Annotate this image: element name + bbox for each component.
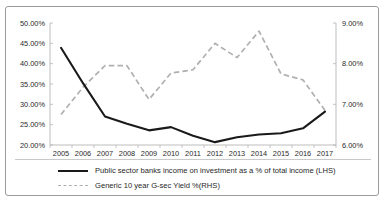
series-line-psb-income [61,48,325,142]
svg-text:2011: 2011 [185,149,201,158]
svg-text:2012: 2012 [207,149,223,158]
series-line-gsec-yield [61,31,325,114]
svg-text:30.00%: 30.00% [20,100,45,109]
svg-text:2006: 2006 [75,149,91,158]
svg-text:6.00%: 6.00% [342,141,363,150]
svg-text:7.00%: 7.00% [342,100,363,109]
legend-swatch-dashed-icon [58,181,88,191]
svg-text:2017: 2017 [317,149,333,158]
svg-text:2015: 2015 [273,149,289,158]
x-axis-tick-labels: 2005200620072008200920102011201220132014… [50,145,336,158]
svg-text:45.00%: 45.00% [20,39,45,48]
legend-swatch-solid-icon [58,166,88,176]
left-axis-tick-labels: 50.00%45.00%40.00%35.00%30.00%25.00%20.0… [20,19,53,150]
plot-area: 50.00%45.00%40.00%35.00%30.00%25.00%20.0… [6,7,380,159]
right-axis-tick-labels: 9.00%8.00%7.00%6.00% [333,19,363,150]
svg-text:25.00%: 25.00% [20,120,45,129]
svg-text:2016: 2016 [295,149,311,158]
svg-text:9.00%: 9.00% [342,19,363,28]
svg-text:20.00%: 20.00% [20,141,45,150]
svg-text:2010: 2010 [163,149,179,158]
svg-text:2007: 2007 [97,149,113,158]
legend-divider [15,159,371,160]
svg-text:40.00%: 40.00% [20,59,45,68]
svg-text:35.00%: 35.00% [20,80,45,89]
legend-item-gsec-yield: Generic 10 year G-sec Yield %(RHS) [6,178,380,193]
chart-frame: 50.00%45.00%40.00%35.00%30.00%25.00%20.0… [5,6,379,196]
svg-text:2013: 2013 [229,149,245,158]
legend-label-gsec-yield: Generic 10 year G-sec Yield %(RHS) [95,181,220,191]
svg-text:2008: 2008 [119,149,135,158]
line-chart: 50.00%45.00%40.00%35.00%30.00%25.00%20.0… [6,7,380,159]
axis-lines [50,23,336,145]
svg-text:2005: 2005 [53,149,69,158]
svg-text:8.00%: 8.00% [342,59,363,68]
svg-text:2014: 2014 [251,149,267,158]
svg-text:50.00%: 50.00% [20,19,45,28]
chart-legend: Public sector banks income on investment… [6,163,380,193]
svg-text:2009: 2009 [141,149,157,158]
legend-label-psb-income: Public sector banks income on investment… [95,166,336,176]
legend-item-psb-income: Public sector banks income on investment… [6,163,380,178]
